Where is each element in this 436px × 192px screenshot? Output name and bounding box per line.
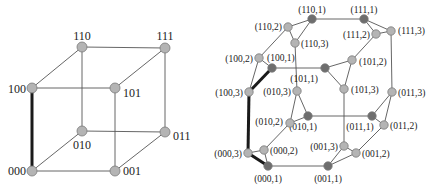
node-101-2 — [348, 56, 356, 64]
node-label: (001,2) — [362, 149, 390, 160]
node-101 — [110, 83, 120, 93]
node-label: 001 — [123, 164, 141, 178]
edge — [391, 31, 392, 92]
node-label: 101 — [123, 86, 141, 100]
edge — [32, 47, 82, 88]
node-label: (001,1) — [314, 174, 342, 185]
node-011 — [160, 127, 170, 137]
node-label: (110,2) — [255, 22, 282, 33]
node-010-2 — [286, 119, 294, 127]
node-000-1 — [264, 162, 272, 170]
node-010-3 — [293, 87, 301, 95]
node-101-3 — [340, 85, 348, 93]
diagram-canvas: 000001010011100101110111 (110,1)(111,1)(… — [0, 0, 436, 192]
node-label: (111,3) — [398, 26, 425, 37]
node-label: (101,2) — [359, 57, 387, 68]
node-010-1 — [304, 112, 312, 120]
node-label: 100 — [8, 82, 26, 96]
node-label: (100,3) — [215, 88, 243, 99]
node-label: (100,1) — [267, 53, 295, 64]
node-label: (011,1) — [346, 122, 373, 133]
node-label: (110,3) — [301, 39, 328, 50]
node-010 — [77, 126, 87, 136]
node-100-1 — [268, 64, 276, 72]
hypercube-graph: 000001010011100101110111 — [8, 29, 191, 178]
node-label: (100,2) — [225, 54, 253, 65]
highlighted-edge — [248, 92, 249, 153]
node-100-3 — [245, 88, 253, 96]
cube-connected-cycles-graph: (110,1)(111,1)(110,2)(111,2)(111,3)(110,… — [214, 5, 425, 185]
edge — [82, 131, 165, 132]
node-label: (101,1) — [290, 74, 318, 85]
edge — [290, 91, 297, 123]
node-100-2 — [255, 54, 263, 62]
node-011-1 — [368, 112, 376, 120]
node-label: (010,2) — [255, 117, 283, 128]
node-111-2 — [372, 30, 380, 38]
node-label: (101,3) — [351, 85, 379, 96]
node-100 — [27, 83, 37, 93]
edge — [115, 48, 165, 88]
node-label: 010 — [73, 138, 91, 152]
node-110 — [77, 42, 87, 52]
node-label: (010,3) — [263, 87, 291, 98]
node-111-1 — [360, 15, 368, 23]
node-000-3 — [244, 149, 252, 157]
node-000 — [27, 166, 37, 176]
node-label: (110,1) — [298, 5, 325, 16]
node-label: (111,1) — [351, 5, 378, 16]
node-000-2 — [260, 146, 268, 154]
edge — [328, 153, 356, 166]
node-001 — [110, 166, 120, 176]
node-label: (111,2) — [343, 30, 370, 41]
edge — [82, 47, 165, 48]
node-011-3 — [388, 88, 396, 96]
node-label: (001,3) — [310, 142, 338, 153]
node-111 — [160, 43, 170, 53]
node-label: (011,2) — [390, 121, 417, 132]
node-label: (011,3) — [398, 88, 425, 99]
node-001-1 — [324, 162, 332, 170]
node-001-3 — [340, 142, 348, 150]
node-001-2 — [352, 149, 360, 157]
node-label: 110 — [73, 29, 91, 43]
node-label: 000 — [8, 164, 26, 178]
node-011-2 — [380, 121, 388, 129]
node-110-2 — [284, 23, 292, 31]
node-label: 011 — [173, 129, 191, 143]
node-label: (000,2) — [270, 146, 298, 157]
node-label: (000,3) — [214, 149, 242, 160]
node-110-3 — [291, 39, 299, 47]
node-110-1 — [308, 15, 316, 23]
node-101-1 — [321, 64, 329, 72]
node-label: (000,1) — [254, 174, 282, 185]
node-111-3 — [387, 27, 395, 35]
node-label: 111 — [156, 29, 173, 43]
